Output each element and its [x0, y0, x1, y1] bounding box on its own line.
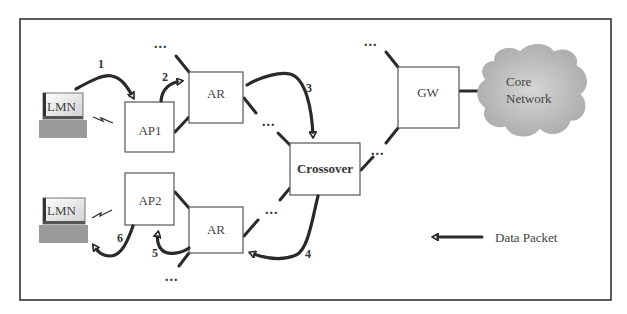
step-2-label: 2: [162, 70, 168, 84]
lmn-bottom-laptop-icon: LMN: [39, 198, 88, 243]
ap1-node: AP1: [125, 102, 174, 152]
gw-node: GW: [398, 67, 459, 128]
ar-top-label: AR: [207, 86, 225, 101]
lmn-top-label: LMN: [47, 99, 77, 114]
lmn-bottom-label: LMN: [47, 203, 77, 218]
step-3-label: 3: [306, 81, 312, 95]
step-5-label: 5: [152, 246, 158, 260]
ar-bottom-label: AR: [207, 222, 225, 237]
step-4-label: 4: [305, 247, 311, 261]
network-diagram: LMN LMN ... ... ... ... ... ... AP1 AP2: [0, 0, 627, 314]
ellipsis-gw-upper: ...: [364, 34, 378, 49]
ap2-node: AP2: [125, 173, 174, 225]
crossover-label: Crossover: [297, 161, 353, 176]
ellipsis-ar-top-upper: ...: [154, 36, 168, 51]
ar-bottom-node: AR: [189, 207, 243, 253]
lmn-top-laptop-icon: LMN: [39, 93, 87, 138]
legend-label: Data Packet: [495, 230, 558, 245]
ellipsis-crossover-gw: ...: [371, 143, 385, 158]
ap2-label: AP2: [138, 193, 161, 208]
step-6-label: 6: [117, 231, 123, 245]
core-network-line2: Network: [506, 91, 552, 106]
ellipsis-ar-bottom-crossover: ...: [265, 202, 279, 217]
crossover-node: Crossover: [290, 143, 360, 195]
gw-label: GW: [417, 85, 439, 100]
step-1-label: 1: [98, 57, 104, 71]
core-network-line1: Core: [506, 74, 532, 89]
ellipsis-ar-top-crossover: ...: [262, 114, 276, 129]
ar-top-node: AR: [189, 72, 243, 123]
ellipsis-ar-bottom-lower: ...: [165, 269, 179, 284]
ap1-label: AP1: [138, 123, 161, 138]
